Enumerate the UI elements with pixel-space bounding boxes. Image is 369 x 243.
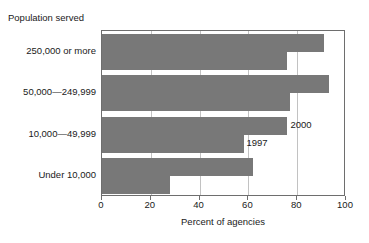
bar xyxy=(102,93,290,111)
bar xyxy=(102,176,170,194)
chart-title: Population served xyxy=(8,12,84,24)
series-label-2000: 2000 xyxy=(290,119,311,131)
bar xyxy=(102,117,287,135)
x-tick-label: 60 xyxy=(242,199,253,211)
bar-group xyxy=(102,75,344,111)
bar-chart-figure: Population served 250,000 or more50,000—… xyxy=(0,0,369,243)
bar xyxy=(102,34,324,52)
category-label: 10,000—49,999 xyxy=(28,128,96,140)
x-tick-label: 80 xyxy=(291,199,302,211)
x-tick-label: 100 xyxy=(337,199,353,211)
plot-area xyxy=(101,30,345,196)
x-tick-label: 40 xyxy=(193,199,204,211)
bar-group xyxy=(102,158,344,194)
bar xyxy=(102,52,287,70)
category-label: Under 10,000 xyxy=(38,169,96,181)
bar xyxy=(102,158,253,176)
x-tick-label: 0 xyxy=(98,199,103,211)
bar xyxy=(102,75,329,93)
x-axis-title: Percent of agencies xyxy=(181,216,265,228)
bar xyxy=(102,135,244,153)
bar-series-container xyxy=(102,31,344,195)
category-label: 50,000—249,999 xyxy=(23,86,96,98)
category-label: 250,000 or more xyxy=(26,45,96,57)
bar-group xyxy=(102,34,344,70)
series-label-1997: 1997 xyxy=(247,137,268,149)
x-tick-label: 20 xyxy=(145,199,156,211)
